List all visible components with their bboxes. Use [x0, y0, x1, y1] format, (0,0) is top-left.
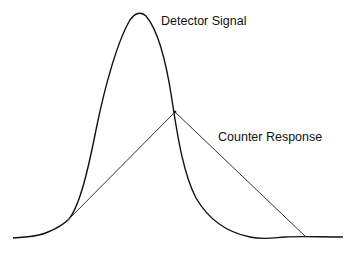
counter-response-label: Counter Response — [218, 130, 322, 144]
diagram-canvas — [0, 0, 354, 257]
detector-signal-label: Detector Signal — [161, 14, 246, 28]
triangle-apex — [174, 111, 177, 114]
detector-signal-curve — [13, 13, 343, 238]
